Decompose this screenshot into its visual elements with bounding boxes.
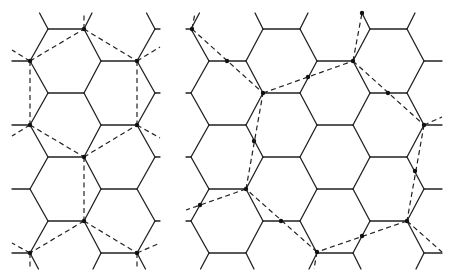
marker-dot xyxy=(198,203,202,207)
dashed-path xyxy=(12,243,30,253)
lattice-edge xyxy=(137,189,155,221)
lattice-edge xyxy=(84,61,101,93)
lattice-edge xyxy=(30,189,48,221)
lattice-edge xyxy=(353,93,370,125)
lattice-edge xyxy=(300,93,317,125)
lattice-edge xyxy=(191,61,209,93)
hexagonal-lattice-figure xyxy=(0,0,451,279)
lattice-edge xyxy=(407,29,424,61)
right-lattice xyxy=(186,13,442,269)
lattice-edge xyxy=(246,221,263,253)
marker-dot xyxy=(28,251,32,255)
lattice-edge xyxy=(407,61,424,93)
lattice-edge xyxy=(191,157,209,189)
lattice-edge xyxy=(246,61,263,93)
marker-dot xyxy=(360,11,364,15)
marker-dot xyxy=(225,59,229,63)
lattice-edge xyxy=(84,189,101,221)
right-dashed-overlay xyxy=(186,13,442,269)
lattice-edge xyxy=(353,125,370,157)
lattice-edge xyxy=(246,189,263,221)
marker-dot xyxy=(261,91,265,95)
lattice-stub xyxy=(30,253,38,269)
lattice-edge xyxy=(300,125,317,157)
dashed-path xyxy=(30,125,84,157)
lattice-stub xyxy=(255,13,263,29)
marker-dot xyxy=(190,27,194,31)
lattice-edge xyxy=(353,61,370,93)
marker-dot xyxy=(28,59,32,63)
marker-dot xyxy=(135,59,139,63)
marker-dot xyxy=(135,251,139,255)
marker-dot xyxy=(413,169,417,173)
marker-dot xyxy=(315,250,319,254)
marker-dot xyxy=(386,91,390,95)
lattice-edge xyxy=(137,93,155,125)
lattice-stub xyxy=(362,13,370,29)
marker-dot xyxy=(306,75,310,79)
lattice-edge xyxy=(191,221,209,253)
lattice-edge xyxy=(30,93,48,125)
lattice-edge xyxy=(300,189,317,221)
lattice-stub xyxy=(300,13,308,29)
dashed-path xyxy=(30,221,84,253)
marker-dot xyxy=(405,219,409,223)
lattice-edge xyxy=(300,29,317,61)
lattice-edge xyxy=(191,125,209,157)
lattice-stub xyxy=(353,253,361,269)
lattice-edge xyxy=(137,221,155,253)
left-panel xyxy=(12,13,160,270)
lattice-stub xyxy=(93,253,101,269)
marker-dot xyxy=(82,219,86,223)
marker-dot xyxy=(82,155,86,159)
lattice-edge xyxy=(407,221,424,253)
dashed-path xyxy=(407,221,442,252)
dashed-path xyxy=(12,50,30,61)
lattice-edge xyxy=(30,157,48,189)
lattice-edge xyxy=(191,29,209,61)
marker-dot xyxy=(351,59,355,63)
dashed-path xyxy=(424,117,442,125)
lattice-edge xyxy=(30,61,48,93)
lattice-stub xyxy=(147,13,155,29)
lattice-stub xyxy=(416,253,424,269)
lattice-stub xyxy=(246,253,254,269)
lattice-stub xyxy=(407,13,415,29)
marker-dot xyxy=(279,219,283,223)
right-panel xyxy=(186,11,442,269)
dashed-path xyxy=(186,189,246,210)
right-markers xyxy=(190,11,426,254)
lattice-edge xyxy=(246,157,263,189)
lattice-stub xyxy=(201,253,209,269)
lattice-edge xyxy=(407,125,424,157)
lattice-edge xyxy=(137,157,155,189)
dashed-path xyxy=(12,125,30,136)
marker-dot xyxy=(82,27,86,31)
lattice-edge xyxy=(353,157,370,189)
marker-dot xyxy=(244,187,248,191)
marker-dot xyxy=(422,123,426,127)
lattice-stub xyxy=(84,13,92,29)
lattice-edge xyxy=(300,157,317,189)
lattice-edge xyxy=(84,157,101,189)
marker-dot xyxy=(28,123,32,127)
lattice-edge xyxy=(407,93,424,125)
lattice-stub xyxy=(137,253,145,269)
lattice-edge xyxy=(137,61,155,93)
lattice-edge xyxy=(300,221,317,253)
marker-dot xyxy=(135,123,139,127)
lattice-edge xyxy=(353,29,370,61)
lattice-stub xyxy=(40,13,48,29)
lattice-edge xyxy=(353,189,370,221)
lattice-edge xyxy=(246,29,263,61)
lattice-edge xyxy=(84,93,101,125)
marker-dot xyxy=(360,234,364,238)
left-lattice xyxy=(12,13,160,269)
marker-dot xyxy=(252,139,256,143)
left-dashed-overlay xyxy=(12,13,160,270)
dashed-path xyxy=(30,29,84,61)
lattice-edge xyxy=(191,93,209,125)
